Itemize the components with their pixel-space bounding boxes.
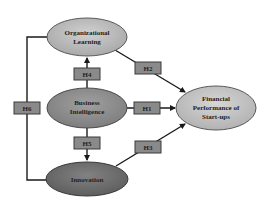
node-innovation: Innovation xyxy=(46,162,128,196)
hypothesis-label: H5 xyxy=(83,140,92,148)
node-label: Organizational xyxy=(64,29,109,37)
node-label: Start-ups xyxy=(202,113,230,121)
hypothesis-label: H1 xyxy=(143,105,152,113)
node-label: Learning xyxy=(73,38,101,46)
hypothesis-h6: H6 xyxy=(14,102,40,114)
hypothesis-h1: H1 xyxy=(134,102,160,114)
node-organizational-learning: Organizational Learning xyxy=(47,18,127,56)
hypothesis-label: H3 xyxy=(144,144,153,152)
node-financial-performance: Financial Performance of Start-ups xyxy=(176,86,256,130)
node-business-intelligence: Business Intelligence xyxy=(47,88,127,128)
node-label: Innovation xyxy=(71,176,104,184)
hypothesis-h4: H4 xyxy=(74,68,100,80)
node-label: Intelligence xyxy=(70,108,105,116)
node-label: Financial xyxy=(202,95,230,103)
hypothesis-label: H2 xyxy=(144,65,153,73)
hypothesis-label: H6 xyxy=(23,105,32,113)
hypothesis-h5: H5 xyxy=(74,137,100,149)
hypothesis-h3: H3 xyxy=(135,141,161,153)
node-label: Business xyxy=(74,99,100,107)
node-label: Performance of xyxy=(193,104,240,112)
research-model-diagram: Organizational Learning Business Intelli… xyxy=(0,0,267,209)
hypothesis-label: H4 xyxy=(83,71,92,79)
hypothesis-h2: H2 xyxy=(135,62,161,74)
